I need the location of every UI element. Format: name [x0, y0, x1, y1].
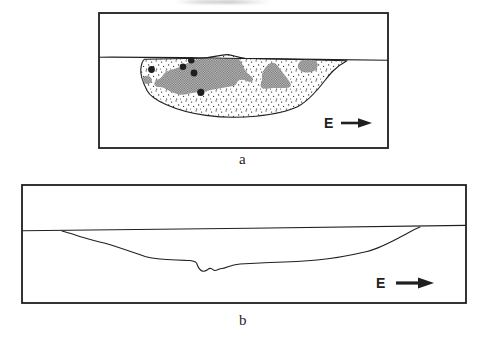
east-label-b: E: [376, 275, 385, 291]
artifact-dot: [197, 89, 204, 96]
artifact-dot: [191, 70, 198, 77]
panel-b-frame: [22, 185, 466, 303]
artifact-dot: [188, 57, 195, 64]
panel-a: E: [99, 13, 388, 148]
panel-b: E: [22, 185, 466, 303]
panel-label-b: b: [239, 312, 247, 328]
artifact-dot: [148, 66, 155, 73]
east-label-a: E: [324, 115, 333, 131]
artifact-dot: [180, 64, 187, 71]
panel-label-a: a: [239, 151, 246, 167]
figure-page: E a E b: [0, 0, 485, 337]
